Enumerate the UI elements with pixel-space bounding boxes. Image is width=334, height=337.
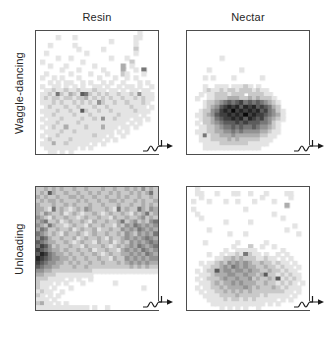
panel-unloading-resin bbox=[35, 186, 159, 311]
panel-waggle-dancing-resin bbox=[35, 30, 159, 155]
axis-break-notch bbox=[154, 145, 165, 154]
heatmap-unloading-resin bbox=[36, 187, 158, 310]
row-title-waggle-dancing: Waggle-dancing bbox=[13, 31, 25, 155]
panel-unloading-nectar bbox=[186, 186, 310, 311]
heatmap-waggle-dancing-nectar bbox=[187, 31, 309, 154]
panel-waggle-dancing-nectar bbox=[186, 30, 310, 155]
figure-panel-grid: Resin Nectar Waggle-dancing Unloading bbox=[0, 0, 334, 337]
axis-break-notch bbox=[154, 301, 165, 310]
column-title-resin: Resin bbox=[35, 11, 159, 23]
axis-break-notch bbox=[305, 301, 316, 310]
heatmap-unloading-nectar bbox=[187, 187, 309, 310]
heatmap-waggle-dancing-resin bbox=[36, 31, 158, 154]
column-title-nectar: Nectar bbox=[186, 11, 310, 23]
caption-strip bbox=[0, 320, 334, 337]
row-title-unloading: Unloading bbox=[13, 187, 25, 311]
axis-break-notch bbox=[305, 145, 316, 154]
